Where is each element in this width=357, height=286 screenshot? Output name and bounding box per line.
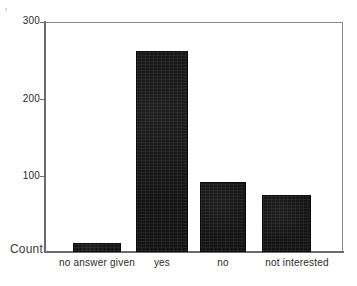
x-tick-label-not-interested: not interested — [252, 257, 342, 269]
x-tick-label-yes: yes — [136, 257, 188, 269]
bar-no — [200, 182, 246, 252]
bar-no-answer-given — [73, 243, 121, 252]
bars-layer — [0, 0, 357, 286]
bar-not-interested — [262, 195, 311, 253]
bar-chart-screenshot: 300 200 100 Count no answer given yes no… — [0, 0, 357, 286]
bar-yes — [136, 51, 188, 252]
x-tick-label-no: no — [198, 257, 248, 269]
x-tick-label-no-answer-given: no answer given — [47, 257, 147, 269]
